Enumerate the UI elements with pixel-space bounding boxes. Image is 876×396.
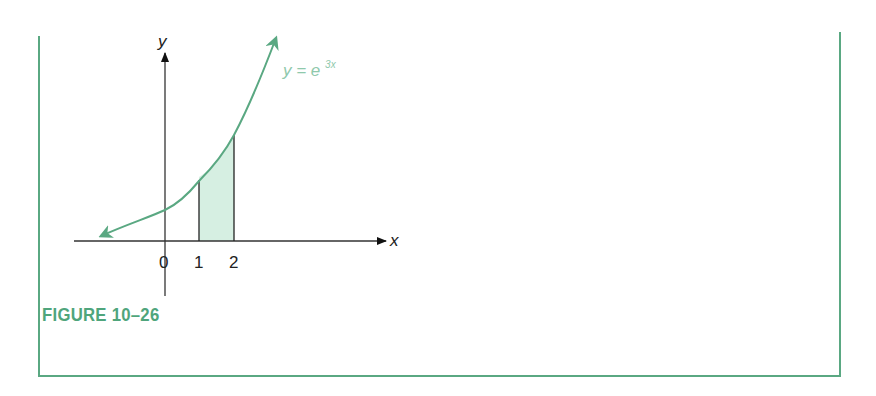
exponential-chart: y x 0 1 2 y = e 3x xyxy=(0,0,876,396)
x-tick-label-1: 1 xyxy=(194,253,203,272)
curve-equation-label: y = e 3x xyxy=(282,59,337,80)
curve-equation-base: y = e xyxy=(282,61,320,80)
shaded-area-region xyxy=(199,134,234,241)
exponential-curve xyxy=(101,38,276,236)
x-axis-label: x xyxy=(389,231,399,250)
curve-equation-exponent: 3x xyxy=(325,59,337,70)
y-axis-label: y xyxy=(157,32,168,51)
figure-caption: FIGURE 10–26 xyxy=(42,304,159,326)
x-tick-label-2: 2 xyxy=(229,253,238,272)
x-tick-label-0: 0 xyxy=(159,253,168,272)
